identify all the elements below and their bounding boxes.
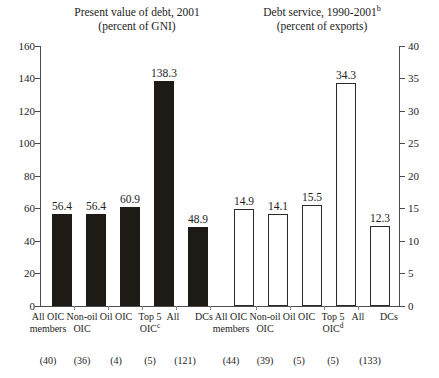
y-axis-right-label-25: 25 <box>408 138 419 149</box>
bar-right-all-oic-members[interactable] <box>234 209 254 306</box>
x-label-left-top-5-oic-text: OIC <box>140 323 157 334</box>
bar-left-all-dcs[interactable] <box>188 227 208 306</box>
x-axis-slot-tick-3 <box>142 306 143 310</box>
y-axis-left-label-40: 40 <box>24 236 35 247</box>
x-count-left-all-dcs: (121) <box>163 355 207 366</box>
bar-value-right-top-5-oic: 34.3 <box>326 69 366 81</box>
y-axis-right-tick-15 <box>400 208 405 209</box>
bar-right-top-5-oic[interactable] <box>336 83 356 306</box>
bar-left-all-oic-members[interactable] <box>52 214 72 306</box>
panel-title-right-line2: (percent of exports) <box>237 20 407 34</box>
x-axis-slot-tick-7 <box>290 306 291 310</box>
y-axis-right-label-15: 15 <box>408 203 419 214</box>
y-axis-right-label-20: 20 <box>408 171 419 182</box>
bar-right-oil-oic[interactable] <box>302 205 322 306</box>
bar-value-left-all-dcs: 48.9 <box>178 213 218 225</box>
y-axis-right-label-10: 10 <box>408 236 419 247</box>
y-axis-right-label-0: 0 <box>408 301 414 312</box>
y-axis-left-label-20: 20 <box>24 268 35 279</box>
y-axis-right-tick-30 <box>400 111 405 112</box>
y-axis-left-label-100: 100 <box>19 138 36 149</box>
bar-left-top-5-oic[interactable] <box>154 81 174 306</box>
panel-title-right-text: Debt service, 1990-2001 <box>263 6 376 18</box>
x-label-left-non-oil-oic-line2: OIC <box>60 323 104 335</box>
panel-title-right-line1: Debt service, 1990-2001b <box>237 6 407 20</box>
x-axis-slot-tick-2 <box>108 306 109 310</box>
bar-value-right-all-dcs: 12.3 <box>360 212 400 224</box>
x-label-right-non-oil-oic-line2: OIC <box>243 323 287 335</box>
x-axis-slot-tick-6 <box>256 306 257 310</box>
bar-value-left-top-5-oic: 138.3 <box>142 67 186 79</box>
bar-right-non-oil-oic[interactable] <box>268 214 288 306</box>
y-axis-left-label-140: 140 <box>19 73 36 84</box>
x-label-right-top-5-oic-line2: OICd <box>311 323 355 335</box>
y-axis-right-tick-20 <box>400 176 405 177</box>
y-axis-right-label-40: 40 <box>408 41 419 52</box>
y-axis-right-label-30: 30 <box>408 106 419 117</box>
panel-title-right: Debt service, 1990-2001b (percent of exp… <box>237 6 407 33</box>
y-axis-left-label-80: 80 <box>24 171 35 182</box>
x-axis-slot-tick-4 <box>176 306 177 310</box>
clipped-footnote-row <box>0 371 439 378</box>
y-axis-right-tick-25 <box>400 143 405 144</box>
x-axis-slot-tick-9 <box>358 306 359 310</box>
y-axis-left-label-60: 60 <box>24 203 35 214</box>
y-axis-right-tick-5 <box>400 273 405 274</box>
y-axis-right-tick-10 <box>400 241 405 242</box>
y-axis-left-label-160: 160 <box>19 41 36 52</box>
panel-title-left: Present value of debt, 2001 (percent of … <box>52 6 222 33</box>
y-axis-left-tick-0 <box>35 306 40 307</box>
x-label-left-top-5-oic-line2: OICc <box>128 323 172 335</box>
x-count-right-all-dcs: (133) <box>346 355 394 366</box>
bar-value-right-oil-oic: 15.5 <box>292 191 332 203</box>
panel-title-left-line2: (percent of GNI) <box>52 20 222 34</box>
x-label-right-dcs: DCs <box>371 311 407 323</box>
y-axis-right-label-35: 35 <box>408 73 419 84</box>
x-axis-line <box>40 306 400 307</box>
x-axis-slot-tick-1 <box>74 306 75 310</box>
x-label-right-top-5-oic-text: OIC <box>323 323 340 334</box>
panel-title-left-line1: Present value of debt, 2001 <box>52 6 222 20</box>
plot-area: 56.4 56.4 60.9 138.3 48.9 14.9 14.1 15.5… <box>40 46 400 306</box>
bar-left-oil-oic[interactable] <box>120 207 140 306</box>
x-axis-slot-tick-5 <box>210 306 211 310</box>
y-axis-right-tick-40 <box>400 46 405 47</box>
y-axis-left-label-120: 120 <box>19 106 36 117</box>
x-axis-slot-tick-8 <box>324 306 325 310</box>
bar-left-non-oil-oic[interactable] <box>86 214 106 306</box>
y-axis-right-tick-0 <box>400 306 405 307</box>
figure-debt-indicators-chart: Present value of debt, 2001 (percent of … <box>0 0 439 378</box>
y-axis-right-label-5: 5 <box>408 268 414 279</box>
y-axis-right-tick-35 <box>400 78 405 79</box>
bar-value-left-oil-oic: 60.9 <box>110 193 150 205</box>
x-label-right-dcs-line1: DCs <box>371 311 407 323</box>
bar-right-all-dcs[interactable] <box>370 226 390 306</box>
panel-title-right-superscript: b <box>377 4 381 13</box>
